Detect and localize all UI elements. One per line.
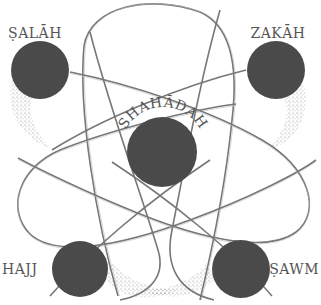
salah-circle [11, 41, 69, 99]
salah-label: ṢALĀH [8, 24, 62, 41]
pillar-nodes [11, 41, 305, 298]
diagram-canvas: ṢALĀH ZAKĀH HAJJ ṢAWM SHAHĀDAH [0, 0, 321, 305]
sawm-circle [212, 240, 270, 298]
five-pillars-atom-diagram: ṢALĀH ZAKĀH HAJJ ṢAWM SHAHĀDAH [0, 0, 321, 305]
hajj-circle [52, 241, 108, 297]
zakah-label: ZAKĀH [250, 24, 305, 41]
shahadah-circle [127, 117, 197, 187]
hajj-label: HAJJ [2, 261, 38, 277]
zakah-circle [247, 41, 305, 99]
sawm-label: ṢAWM [269, 261, 319, 277]
